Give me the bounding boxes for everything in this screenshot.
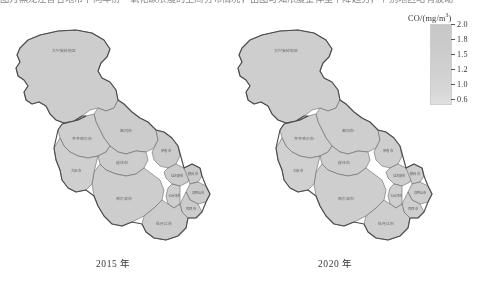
region-label-yichun-2020: 伊春市 [383,148,393,153]
map-regions-2015: 大兴安岭地区 黑河市 伊春市 齐齐哈尔市 绥化市 佳木斯市 鹤岗市 [16,30,210,240]
region-label-daqing-2015: 大庆市 [71,168,81,173]
region-label-qitaihe-2020: 七台河市 [390,193,403,198]
tick-dash-1 [451,39,455,40]
region-label-daqing-2020: 大庆市 [293,168,303,173]
region-label-qiqihar-2020: 齐齐哈尔市 [294,136,315,141]
region-label-suihua-2020: 绥化市 [338,160,350,165]
region-label-qiqihar-2015: 齐齐哈尔市 [72,136,93,141]
colorbar-tick-3: 1.2 [451,65,468,75]
region-label-jixi-2015: 鸡西市 [186,206,196,211]
tick-label-3: 1.2 [457,65,468,74]
tick-dash-0 [451,24,455,25]
legend-unit-prefix: (mg/m [422,14,445,23]
figure-container: 大兴安岭地区 黑河市 伊春市 齐齐哈尔市 绥化市 佳木斯市 鹤岗市 [0,0,488,298]
colorbar-tick-4: 1.0 [451,80,468,90]
tick-dash-3 [451,69,455,70]
region-label-harbin-2015: 哈尔滨市 [116,196,132,201]
legend-title-analyte: CO/ [408,14,422,23]
colorbar-tick-5: 0.6 [451,95,468,105]
region-label-mudanjiang-2020: 牡丹江市 [378,221,394,226]
region-label-shuangyashan-2020: 双鸭山市 [414,190,427,195]
legend-title: CO/(mg/m3) [408,12,452,23]
tick-label-5: 0.6 [457,95,468,104]
colorbar-tick-0: 2.0 [451,20,468,30]
colorbar-tick-1: 1.8 [451,35,468,45]
region-label-mudanjiang-2015: 牡丹江市 [156,221,172,226]
region-label-shuangyashan-2015: 双鸭山市 [192,190,205,195]
tick-label-1: 1.8 [457,35,468,44]
map-panel-2015: 大兴安岭地区 黑河市 伊春市 齐齐哈尔市 绥化市 佳木斯市 鹤岗市 [6,18,221,266]
tick-dash-2 [451,54,455,55]
region-label-hegang-2015: 鹤岗市 [188,171,198,176]
tick-label-2: 1.5 [457,50,468,59]
region-daxinganling-2020 [238,30,340,123]
choropleth-map-2015: 大兴安岭地区 黑河市 伊春市 齐齐哈尔市 绥化市 佳木斯市 鹤岗市 [6,18,221,250]
region-label-qitaihe-2015: 七台河市 [168,193,181,198]
region-label-daxinganling-2015: 大兴安岭地区 [52,48,77,53]
tick-dash-5 [451,99,455,100]
region-label-heihe-2020: 黑河市 [342,128,354,133]
tick-label-4: 1.0 [457,80,468,89]
region-label-harbin-2020: 哈尔滨市 [338,196,354,201]
region-label-suihua-2015: 绥化市 [116,160,128,165]
tick-label-0: 2.0 [457,20,468,29]
colorbar-legend: CO/(mg/m3) 2.0 1.8 1.5 1.2 1.0 0.6 [408,12,486,110]
region-label-daxinganling-2020: 大兴安岭地区 [274,48,299,53]
colorbar-tick-2: 1.5 [451,50,468,60]
panel-caption-2015: 2015 年 [6,256,221,270]
region-label-heihe-2015: 黑河市 [120,128,132,133]
region-label-jixi-2020: 鸡西市 [408,206,418,211]
map-regions-2020: 大兴安岭地区 黑河市 伊春市 齐齐哈尔市 绥化市 佳木斯市 鹤岗市 双鸭山市 鸡… [238,30,432,240]
tick-dash-4 [451,84,455,85]
region-label-jiamusi-2015: 佳木斯市 [171,173,184,178]
region-daxinganling-2015 [16,30,118,123]
region-label-jiamusi-2020: 佳木斯市 [393,173,406,178]
panel-caption-2020: 2020 年 [228,256,443,270]
colorbar-gradient [430,24,452,105]
region-label-hegang-2020: 鹤岗市 [410,171,420,176]
region-label-yichun-2015: 伊春市 [161,148,171,153]
